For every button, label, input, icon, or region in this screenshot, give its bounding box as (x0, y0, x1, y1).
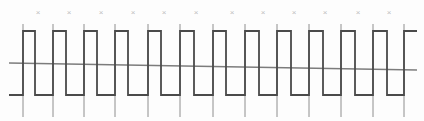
x-tick-mark-9: × (323, 9, 328, 17)
x-tick-mark-10: × (356, 9, 361, 17)
waveform-canvas (0, 0, 424, 121)
x-tick-mark-8: × (292, 9, 297, 17)
square-wave-trace (9, 31, 417, 95)
x-tick-mark-3: × (131, 9, 136, 17)
x-tick-mark-5: × (194, 9, 199, 17)
x-tick-mark-0: × (36, 9, 41, 17)
x-tick-mark-1: × (67, 9, 72, 17)
x-tick-mark-7: × (261, 9, 266, 17)
x-tick-mark-6: × (230, 9, 235, 17)
waveform-figure: ×××××××××××× (0, 0, 424, 121)
x-tick-mark-11: × (387, 9, 392, 17)
x-tick-mark-4: × (162, 9, 167, 17)
x-tick-mark-2: × (99, 9, 104, 17)
